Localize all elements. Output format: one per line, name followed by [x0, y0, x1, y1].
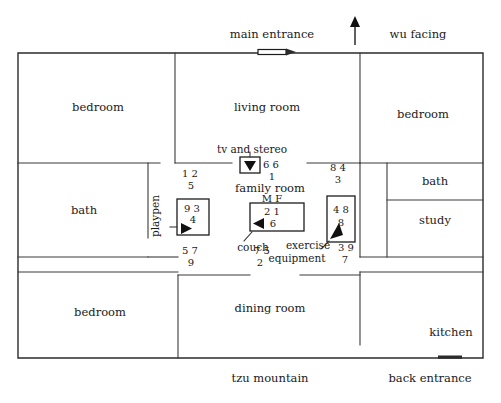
edge-label-back-entrance: back entrance: [388, 371, 471, 385]
room-label-living-room: living room: [234, 100, 300, 114]
edge-label-main-entrance: main entrance: [230, 27, 315, 41]
sector-number-grid-top-left-bottom: 5: [188, 180, 194, 191]
furniture-label-tv-and-stereo: tv and stereo: [217, 143, 287, 155]
sector-number-grid-top-right-top: 8 4: [330, 162, 346, 173]
sector-header-mf: M F: [262, 193, 282, 204]
tv-and-stereo-furniture: [240, 152, 260, 173]
sector-number-grid-bottom-center-bottom: 2: [257, 257, 263, 268]
sector-number-grid-top-center-top: 6 6: [263, 159, 279, 170]
floor-plan-svg: bedroom living room bedroom bath bath st…: [0, 0, 501, 403]
floor-plan-diagram: bedroom living room bedroom bath bath st…: [0, 0, 501, 403]
sector-number-grid-exercise-bottom: 8: [338, 217, 344, 228]
sector-number-grid-bottom-right-bottom: 7: [342, 254, 348, 265]
edge-label-tzu-mountain: tzu mountain: [232, 371, 310, 385]
north-arrow-icon: [350, 16, 360, 45]
sector-number-grid-couch-bottom: 6: [270, 218, 276, 229]
room-label-bath-left: bath: [71, 203, 98, 217]
sector-number-grid-exercise-top: 4 8: [333, 204, 349, 215]
furniture-label-playpen: playpen: [149, 195, 161, 237]
sector-number-grid-bottom-left-top: 5 7: [182, 245, 198, 256]
edge-label-wu-facing: wu facing: [390, 27, 448, 41]
furniture-label-exercise-equipment-line2: equipment: [269, 252, 327, 264]
sector-number-grid-top-center-bottom: 1: [269, 171, 275, 182]
room-label-bath-right: bath: [422, 174, 449, 188]
back-entrance-door-symbol: [438, 356, 462, 359]
sector-number-grid-bottom-left-bottom: 9: [188, 257, 194, 268]
room-label-kitchen: kitchen: [429, 325, 473, 339]
room-label-bedroom-top-right: bedroom: [397, 107, 449, 121]
room-label-dining-room: dining room: [235, 301, 306, 315]
sector-number-grid-top-right-bottom: 3: [335, 174, 341, 185]
furniture-label-exercise-equipment-line1: exercise: [286, 239, 330, 251]
sector-number-grid-bottom-right-top: 3 9: [338, 242, 354, 253]
room-label-bedroom-bottom-left: bedroom: [74, 305, 126, 319]
room-label-bedroom-top-left: bedroom: [72, 100, 124, 114]
sector-number-grid-playpen-bottom: 4: [190, 214, 196, 225]
room-label-study: study: [419, 213, 451, 227]
sector-number-grid-top-left-top: 1 2: [182, 168, 198, 179]
sector-number-grid-playpen-top: 9 3: [184, 203, 200, 214]
sector-number-grid-bottom-center-top: 7 5: [254, 245, 270, 256]
main-entrance-door-symbol: [258, 49, 296, 56]
sector-number-grid-couch-top: 2 1: [264, 206, 280, 217]
